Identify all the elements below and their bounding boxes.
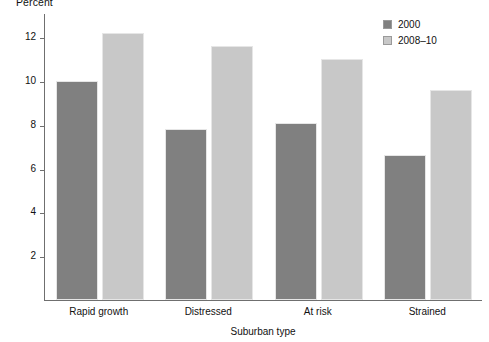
y-tick-mark (40, 38, 44, 39)
x-axis-title: Suburban type (44, 326, 482, 337)
legend: 20002008–10 (383, 18, 437, 50)
bar-group (161, 14, 257, 300)
bar (430, 90, 472, 300)
bar-group (380, 14, 476, 300)
y-tick-mark (40, 213, 44, 214)
bar (275, 123, 317, 300)
x-axis-category-label: Rapid growth (51, 306, 147, 317)
x-axis-category-label: Distressed (160, 306, 256, 317)
bar-group (52, 14, 148, 300)
bar (165, 129, 207, 300)
y-tick-mark (40, 126, 44, 127)
y-tick-label: 4 (30, 206, 36, 217)
bar (211, 46, 253, 300)
y-tick-label: 2 (30, 250, 36, 261)
x-axis-category-label: Strained (379, 306, 475, 317)
bar (321, 59, 363, 300)
x-axis-line (44, 300, 482, 301)
bar-chart: Percent 24681012 Rapid growthDistressedA… (0, 0, 489, 342)
y-tick-label: 6 (30, 163, 36, 174)
legend-label: 2008–10 (398, 35, 437, 46)
y-tick-label: 12 (25, 31, 36, 42)
y-tick-mark (40, 257, 44, 258)
legend-swatch (383, 20, 392, 29)
plot-area: 24681012 Rapid growthDistressedAt riskSt… (44, 14, 482, 301)
bar (384, 155, 426, 300)
y-tick-label: 8 (30, 119, 36, 130)
bar-group (271, 14, 367, 300)
legend-item: 2000 (383, 18, 437, 31)
y-tick-label: 10 (25, 75, 36, 86)
y-tick-mark (40, 82, 44, 83)
y-tick-mark (40, 170, 44, 171)
legend-swatch (383, 36, 392, 45)
bar (102, 33, 144, 300)
legend-label: 2000 (398, 19, 420, 30)
y-axis-title: Percent (16, 0, 53, 8)
bars-layer (45, 14, 482, 300)
legend-item: 2008–10 (383, 34, 437, 47)
bar (56, 81, 98, 300)
x-axis-category-label: At risk (270, 306, 366, 317)
